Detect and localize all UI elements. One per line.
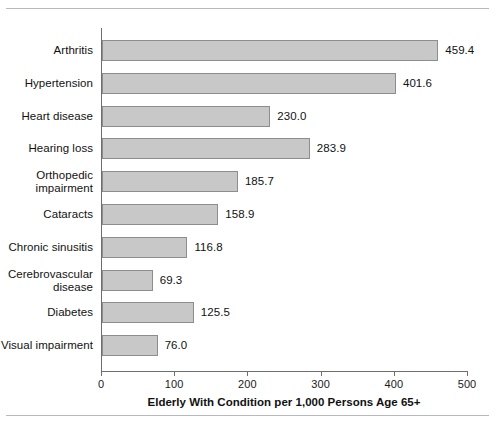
bar-row: Diabetes125.5 — [0, 302, 495, 323]
bar-row: Cataracts158.9 — [0, 204, 495, 225]
bar-row: Orthopedicimpairment185.7 — [0, 171, 495, 192]
bar-value-label: 230.0 — [277, 110, 306, 122]
category-label: Cataracts — [0, 208, 93, 221]
category-label-line: Heart disease — [0, 110, 93, 123]
category-label-line: Cerebrovascular — [0, 268, 93, 281]
bar-chart-plot-area: 0100200300400500 Arthritis459.4Hypertens… — [0, 0, 495, 427]
category-label-line: Hypertension — [0, 77, 93, 90]
x-axis-tick-label: 400 — [384, 378, 403, 390]
bar-value-label: 185.7 — [245, 175, 274, 187]
category-label-line: impairment — [0, 182, 93, 195]
x-axis-tick-mark — [394, 371, 395, 376]
category-label: Orthopedicimpairment — [0, 169, 93, 195]
x-axis-tick-mark — [174, 371, 175, 376]
bar-value-label: 283.9 — [317, 142, 346, 154]
bar-value-label: 76.0 — [165, 339, 188, 351]
category-label: Heart disease — [0, 110, 93, 123]
category-label: Hypertension — [0, 77, 93, 90]
category-label-line: Cataracts — [0, 208, 93, 221]
category-label: Arthritis — [0, 44, 93, 57]
x-axis-tick-label: 300 — [311, 378, 330, 390]
bar — [102, 106, 270, 127]
bar-value-label: 125.5 — [201, 306, 230, 318]
x-axis-tick-mark — [467, 371, 468, 376]
bar — [102, 237, 187, 258]
bar-row: Arthritis459.4 — [0, 40, 495, 61]
bar — [102, 270, 153, 291]
category-label-line: Visual impairment — [0, 339, 93, 352]
x-axis-tick-label: 0 — [98, 378, 104, 390]
x-axis-tick-mark — [321, 371, 322, 376]
bar — [102, 204, 218, 225]
bar — [102, 138, 310, 159]
category-label-line: Hearing loss — [0, 142, 93, 155]
category-label: Hearing loss — [0, 142, 93, 155]
bar-value-label: 401.6 — [403, 77, 432, 89]
bar-row: Chronic sinusitis116.8 — [0, 237, 495, 258]
x-axis-tick-label: 500 — [458, 378, 477, 390]
bar — [102, 40, 438, 61]
x-axis-tick-label: 200 — [238, 378, 257, 390]
x-axis-title: Elderly With Condition per 1,000 Persons… — [101, 396, 467, 408]
bar-row: Visual impairment76.0 — [0, 335, 495, 356]
category-label-line: Orthopedic — [0, 169, 93, 182]
bar-value-label: 116.8 — [194, 241, 222, 253]
bar — [102, 335, 158, 356]
category-label: Cerebrovasculardisease — [0, 268, 93, 294]
x-axis-tick-mark — [247, 371, 248, 376]
category-label-line: Chronic sinusitis — [0, 241, 93, 254]
bar — [102, 302, 194, 323]
category-label: Chronic sinusitis — [0, 241, 93, 254]
bar-row: Hearing loss283.9 — [0, 138, 495, 159]
bar-value-label: 158.9 — [225, 208, 254, 220]
x-axis-tick-mark — [101, 371, 102, 376]
category-label: Visual impairment — [0, 339, 93, 352]
x-axis-line — [101, 371, 467, 372]
category-label-line: Diabetes — [0, 306, 93, 319]
bar — [102, 73, 396, 94]
bar-value-label: 69.3 — [160, 274, 183, 286]
category-label: Diabetes — [0, 306, 93, 319]
bar-row: Cerebrovasculardisease69.3 — [0, 270, 495, 291]
bar — [102, 171, 238, 192]
x-axis-tick-label: 100 — [165, 378, 184, 390]
bar-row: Hypertension401.6 — [0, 73, 495, 94]
category-label-line: disease — [0, 281, 93, 294]
bar-row: Heart disease230.0 — [0, 106, 495, 127]
bar-value-label: 459.4 — [445, 44, 474, 56]
chart-page: 0100200300400500 Arthritis459.4Hypertens… — [0, 0, 495, 427]
category-label-line: Arthritis — [0, 44, 93, 57]
